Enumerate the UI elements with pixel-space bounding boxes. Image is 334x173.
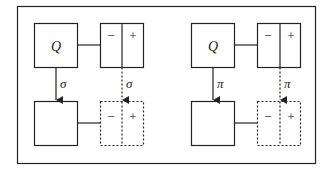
diagram-canvas: Q − + σ σ − + Q − + π π − + [0,0,334,173]
source-label: Q [51,39,61,54]
target-box [35,102,78,146]
map-label-dashed: π [284,76,291,91]
target-plus-sign: + [287,109,294,124]
target-minus-sign: − [107,109,114,124]
map-label-solid: σ [60,76,67,91]
target-box [192,102,235,146]
plus-sign: + [129,28,136,43]
minus-sign: − [107,28,114,43]
map-label-dashed: σ [126,76,133,91]
minus-sign: − [264,28,271,43]
target-minus-sign: − [264,109,271,124]
right-panel: Q − + π π − + [192,24,301,146]
plus-sign: + [287,28,294,43]
target-plus-sign: + [129,109,136,124]
map-label-solid: π [217,76,224,91]
source-label: Q [208,39,218,54]
left-panel: Q − + σ σ − + [35,24,144,146]
